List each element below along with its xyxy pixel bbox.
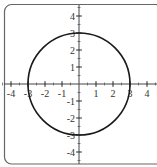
circle-graph: -4-3-2-11234 -4-3-2-11234: [0, 0, 157, 167]
y-tick-label: 4: [70, 11, 75, 22]
x-tick-label: -2: [41, 88, 49, 99]
y-tick-label: 2: [70, 45, 75, 56]
x-tick-label: 4: [145, 88, 150, 99]
y-tick-label: -4: [67, 147, 75, 158]
y-tick-label: -1: [67, 96, 75, 107]
y-tick-label: 1: [70, 62, 75, 73]
x-tick-label: 2: [111, 88, 116, 99]
y-tick-label: -2: [67, 113, 75, 124]
x-tick-label: -1: [58, 88, 66, 99]
x-tick-label: -4: [7, 88, 15, 99]
x-tick-label: 1: [94, 88, 99, 99]
